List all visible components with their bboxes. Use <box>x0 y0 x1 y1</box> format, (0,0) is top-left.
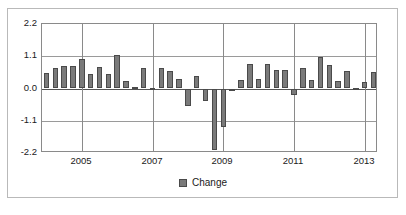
bar <box>335 81 340 88</box>
bar <box>327 65 332 89</box>
bar <box>61 66 66 89</box>
bar <box>97 67 102 88</box>
plot-area <box>41 23 377 152</box>
bar <box>141 68 146 88</box>
bar <box>70 66 75 88</box>
x-axis: 20052007200920112013 <box>41 155 377 169</box>
y-axis-tick-label: 0.0 <box>3 83 37 93</box>
bar <box>150 88 155 90</box>
bar <box>159 68 164 88</box>
y-axis-tick-label: -2.2 <box>3 147 37 157</box>
x-axis-tick-label: 2005 <box>61 155 101 166</box>
bar <box>167 71 172 89</box>
y-axis-tick-label: 1.1 <box>3 50 37 60</box>
bar <box>309 80 314 89</box>
x-axis-tick-label: 2013 <box>344 155 384 166</box>
bar <box>106 74 111 89</box>
bar <box>123 81 128 88</box>
bar <box>53 68 58 89</box>
bar <box>291 89 296 95</box>
bar-series-change <box>42 24 376 151</box>
bar <box>353 88 358 90</box>
x-axis-tick-label: 2007 <box>132 155 172 166</box>
bar <box>282 70 287 88</box>
legend-swatch-icon <box>179 179 187 187</box>
bar <box>265 64 270 89</box>
bar <box>300 68 305 88</box>
bar <box>371 72 376 88</box>
bar <box>238 80 243 88</box>
bar <box>274 70 279 88</box>
bar <box>212 89 217 151</box>
bar <box>176 79 181 88</box>
x-axis-tick-label: 2009 <box>202 155 242 166</box>
bar <box>229 89 234 91</box>
y-axis: 2.21.10.0-1.1-2.2 <box>0 23 37 152</box>
bar <box>132 87 137 89</box>
y-axis-tick-label: 2.2 <box>3 18 37 28</box>
bar <box>221 89 226 127</box>
bar <box>44 73 49 88</box>
bar <box>194 76 199 89</box>
bar <box>318 57 323 89</box>
chart-figure: 2.21.10.0-1.1-2.2 20052007200920112013 C… <box>0 0 406 215</box>
y-axis-tick-label: -1.1 <box>3 115 37 125</box>
chart-legend: Change <box>0 178 406 188</box>
bar <box>203 89 208 101</box>
bar <box>88 74 93 88</box>
bar <box>362 82 367 89</box>
bar <box>114 55 119 88</box>
legend-label: Change <box>192 178 227 188</box>
bar <box>256 79 261 89</box>
x-axis-tick-label: 2011 <box>273 155 313 166</box>
bar <box>79 59 84 88</box>
bar <box>247 64 252 89</box>
bar <box>185 89 190 107</box>
bar <box>344 71 349 89</box>
